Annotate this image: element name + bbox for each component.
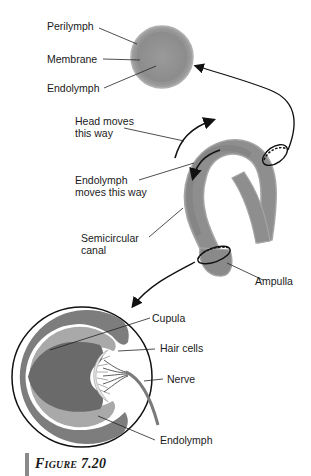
label-cupula: Cupula — [152, 312, 185, 324]
figure-caption: Figure 7.20 — [35, 456, 106, 472]
label-endolymph-moves: Endolymph moves this way — [75, 174, 147, 198]
arrow-to-ampulla-detail — [133, 262, 195, 306]
label-membrane: Membrane — [47, 53, 97, 65]
arrow-to-cross-section — [196, 66, 294, 150]
caption-number: 7.20 — [81, 456, 106, 471]
label-nerve: Nerve — [167, 373, 195, 385]
canal-cross-section — [131, 26, 193, 88]
caption-bar — [25, 453, 29, 476]
label-endolymph-bottom: Endolymph — [160, 434, 213, 446]
ampulla-detail — [12, 307, 158, 447]
label-head-moves: Head moves this way — [75, 115, 134, 139]
label-hair-cells: Hair cells — [160, 342, 203, 354]
caption-prefix: Figure — [35, 456, 77, 471]
label-perilymph: Perilymph — [47, 20, 94, 32]
vestibular-diagram — [0, 0, 311, 476]
label-ampulla: Ampulla — [255, 275, 293, 287]
label-endolymph-top: Endolymph — [47, 82, 100, 94]
label-semicircular-canal: Semicircular canal — [81, 232, 139, 256]
